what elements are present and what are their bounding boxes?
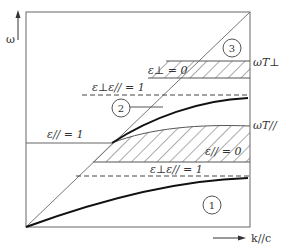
eps-product-upper-label: ε⊥ε// = 1 (92, 81, 145, 94)
x-axis-label: k//c (251, 232, 271, 245)
region-marker-3: 3 (223, 39, 241, 57)
svg-text:3: 3 (229, 43, 235, 54)
dispersion-diagram: ω 3 2 1 ε⊥ = 0 ε⊥ε// = 1 ε// = 1 ε// = 0 (0, 0, 284, 250)
light-line (26, 12, 250, 227)
y-axis-label: ω (6, 33, 15, 46)
eps-product-lower-label: ε⊥ε// = 1 (150, 163, 203, 176)
omega-T-par-label: ωT// (253, 119, 278, 132)
svg-text:1: 1 (209, 200, 215, 211)
eps-par-one-label: ε// = 1 (47, 128, 84, 141)
eps-perp-zero-label: ε⊥ = 0 (148, 64, 187, 77)
region-marker-1: 1 (203, 196, 221, 214)
eps-par-zero-label: ε// = 0 (205, 145, 242, 158)
omega-T-perp-label: ωT⊥ (253, 56, 280, 69)
region-marker-2: 2 (112, 99, 163, 117)
x-axis-arrow (213, 236, 246, 241)
y-axis-arrow (16, 10, 21, 40)
svg-text:2: 2 (118, 103, 124, 114)
